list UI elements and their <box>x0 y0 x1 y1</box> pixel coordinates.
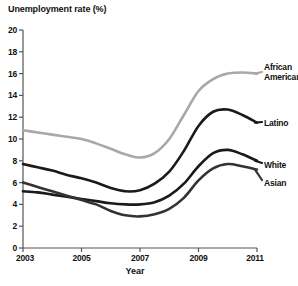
series-leader-lines <box>255 72 262 180</box>
x-axis-title: Year <box>0 266 270 276</box>
leader-line-latino <box>255 122 262 123</box>
series-lines <box>23 73 257 217</box>
x-axis-ticks <box>23 248 257 252</box>
unemployment-rate-chart: Unemployment rate (%) 02468101214161820 … <box>0 0 298 286</box>
series-line-african-american <box>23 73 257 158</box>
series-label-asian: Asian <box>264 178 286 188</box>
leader-line-asian <box>255 170 262 180</box>
plot-area <box>0 0 298 286</box>
leader-line-white <box>255 161 262 163</box>
series-label-white: White <box>264 160 286 170</box>
leader-line-african-american <box>255 72 262 74</box>
series-label-african-american: African American <box>264 62 298 82</box>
series-label-latino: Latino <box>264 118 288 128</box>
